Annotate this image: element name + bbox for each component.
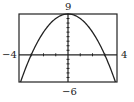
graph-window <box>0 0 134 102</box>
